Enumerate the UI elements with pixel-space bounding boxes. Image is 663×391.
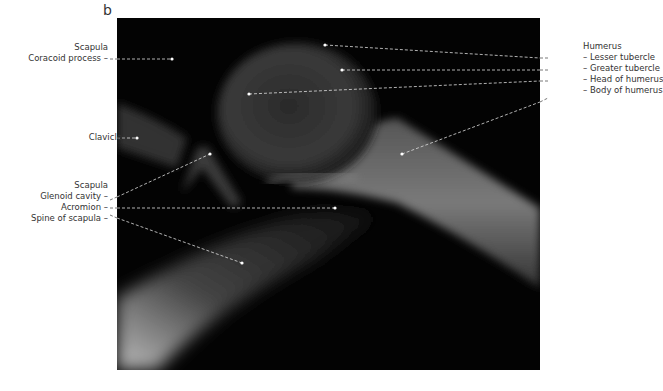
label-group-scapula-glenoid: Scapula Glenoid cavity – Acromion – Spin…	[31, 180, 108, 224]
label-humerus-heading: Humerus	[583, 41, 663, 52]
label-scapula-heading-2: Scapula	[31, 180, 108, 191]
label-acromion: Acromion –	[31, 202, 108, 213]
label-body-of-humerus: – Body of humerus	[583, 85, 663, 96]
label-scapula-heading: Scapula	[28, 42, 108, 53]
leader-lesser-tubercle	[325, 45, 540, 58]
marker-glenoid	[208, 152, 211, 155]
label-clavicle: Clavicle	[89, 132, 122, 143]
label-head-of-humerus: – Head of humerus	[583, 74, 663, 85]
marker-clavicle	[135, 136, 138, 139]
label-group-scapula-coracoid: Scapula Coracoid process –	[28, 42, 108, 64]
leader-head	[249, 81, 540, 94]
label-coracoid-process: Coracoid process –	[28, 53, 108, 64]
label-spine-of-scapula: Spine of scapula –	[31, 213, 108, 224]
marker-lesser-tubercle	[323, 43, 326, 46]
marker-body	[400, 152, 403, 155]
label-greater-tubercle: – Greater tubercle	[583, 63, 663, 74]
marker-greater-tubercle	[340, 68, 343, 71]
leader-body	[402, 102, 540, 154]
marker-head	[247, 92, 250, 95]
leader-glenoid	[117, 154, 210, 197]
marker-coracoid	[170, 57, 173, 60]
label-glenoid-cavity: Glenoid cavity –	[31, 191, 108, 202]
leader-spine	[117, 218, 242, 263]
label-group-humerus: Humerus – Lesser tubercle – Greater tube…	[583, 41, 663, 96]
marker-acromion	[333, 206, 336, 209]
marker-spine	[240, 261, 243, 264]
label-lesser-tubercle: – Lesser tubercle	[583, 52, 663, 63]
